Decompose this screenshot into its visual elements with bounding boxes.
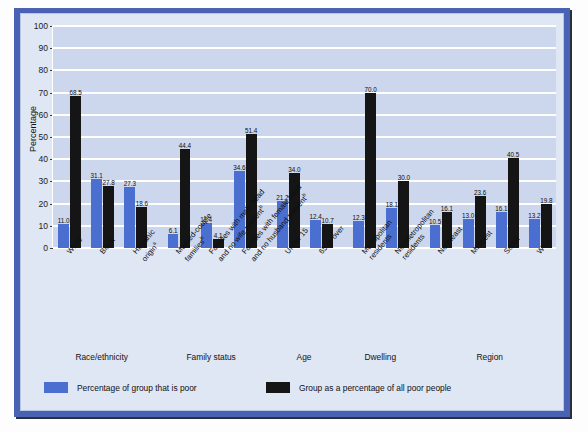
- y-axis-tick-label: 80: [39, 65, 48, 75]
- legend-swatch: [44, 382, 68, 393]
- group-label: Race/ethnicity: [75, 352, 128, 362]
- y-axis-tick-label: 100: [34, 21, 48, 31]
- bar-black: 70.0: [365, 93, 376, 248]
- group-labels: Race/ethnicityFamily statusAgeDwellingRe…: [52, 352, 556, 366]
- legend-item: Group as a percentage of all poor people: [266, 382, 451, 393]
- bar-blue: 13.2: [529, 219, 540, 248]
- y-axis-tick-label: 30: [39, 176, 48, 186]
- bar-blue: 27.3: [124, 187, 135, 248]
- y-axis-label: Percentage: [28, 106, 38, 152]
- bar-value-label: 40.5: [507, 151, 519, 158]
- bar-value-label: 10.7: [321, 217, 333, 224]
- bar-value-label: 30.0: [398, 174, 410, 181]
- bar-value-label: 31.1: [91, 172, 103, 179]
- bar-value-label: 16.1: [495, 205, 507, 212]
- y-axis-tick-label: 0: [43, 243, 48, 253]
- gridline: [53, 158, 556, 160]
- bar-blue: 11.0: [58, 224, 69, 248]
- bar-value-label: 70.0: [365, 86, 377, 93]
- bar-blue: 31.1: [91, 179, 102, 248]
- group-label: Age: [297, 352, 312, 362]
- bar-value-label: 34.0: [288, 166, 300, 173]
- gridline: [53, 92, 556, 94]
- bar-black: 68.5: [70, 96, 81, 248]
- bar-value-label: 68.5: [69, 89, 81, 96]
- gridline: [53, 114, 556, 116]
- gridline: [53, 25, 556, 27]
- bar-blue: 16.1: [496, 212, 507, 248]
- bar-value-label: 11.0: [58, 217, 70, 224]
- bar-value-label: 18.1: [386, 201, 398, 208]
- category-labels: WhiteBlackHispanicoriginaMarried-couplef…: [52, 250, 556, 336]
- bar-value-label: 12.3: [353, 214, 365, 221]
- legend-item: Percentage of group that is poor: [44, 382, 197, 393]
- bar-value-label: 16.1: [441, 205, 453, 212]
- chart-figure: Percentage 0102030405060708090100 11.068…: [0, 0, 588, 432]
- bar-blue: 13.0: [463, 219, 474, 248]
- y-axis-tick-label: 70: [39, 88, 48, 98]
- bar-value-label: 44.4: [179, 142, 191, 149]
- bar-value-label: 27.8: [103, 179, 115, 186]
- bar-blue: 12.3: [353, 221, 364, 248]
- bar-value-label: 27.3: [124, 180, 136, 187]
- bar-value-label: 34.6: [233, 164, 245, 171]
- bar-value-label: 12.4: [309, 213, 321, 220]
- bar-blue: 12.4: [310, 220, 321, 248]
- y-axis-tick-label: 40: [39, 154, 48, 164]
- y-axis-tick-label: 60: [39, 110, 48, 120]
- bar-value-label: 13.2: [528, 212, 540, 219]
- group-label: Dwelling: [364, 352, 396, 362]
- bar-value-label: 6.1: [169, 227, 178, 234]
- gridline: [53, 47, 556, 49]
- y-axis-tick-label: 90: [39, 43, 48, 53]
- bar-value-label: 51.4: [245, 127, 257, 134]
- bar-value-label: 13.0: [462, 212, 474, 219]
- gridline: [53, 136, 556, 138]
- legend-label: Group as a percentage of all poor people: [299, 383, 451, 393]
- bar-value-label: 18.6: [136, 200, 148, 207]
- group-label: Family status: [186, 352, 235, 362]
- y-axis-tick-label: 10: [39, 221, 48, 231]
- y-axis: Percentage 0102030405060708090100: [22, 26, 52, 248]
- gridline: [53, 69, 556, 71]
- group-label: Region: [476, 352, 503, 362]
- legend-label: Percentage of group that is poor: [77, 383, 197, 393]
- y-axis-tick-label: 50: [39, 132, 48, 142]
- plot-area: 11.068.531.127.827.318.66.144.411.44.134…: [52, 26, 556, 248]
- bar-value-label: 19.8: [540, 197, 552, 204]
- bar-value-label: 23.6: [474, 189, 486, 196]
- legend-swatch: [266, 382, 290, 393]
- y-axis-tick-label: 20: [39, 199, 48, 209]
